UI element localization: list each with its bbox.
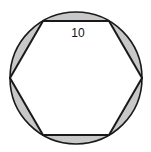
side-length-label: 10 bbox=[71, 26, 85, 40]
diagram: 10 bbox=[0, 0, 151, 152]
